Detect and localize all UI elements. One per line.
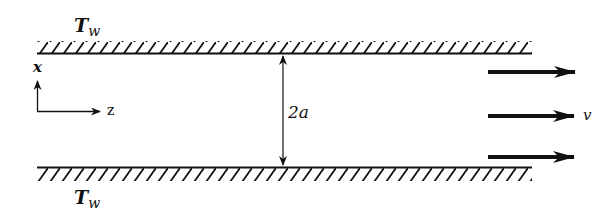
velocity-label: v xyxy=(583,106,591,124)
flow-arrows xyxy=(488,72,575,157)
z-axis-label: z xyxy=(107,102,114,118)
top-wall xyxy=(37,41,532,54)
top-wall-temperature-label: Tw xyxy=(74,14,100,39)
channel-flow-diagram: Tw Tw x z 2a v xyxy=(0,0,612,216)
bottom-wall xyxy=(37,168,532,182)
bottom-wall-temperature-label: Tw xyxy=(74,186,100,211)
coordinate-axes xyxy=(37,81,100,112)
gap-dimension-label: 2a xyxy=(288,102,309,122)
x-axis-label: x xyxy=(33,58,42,76)
